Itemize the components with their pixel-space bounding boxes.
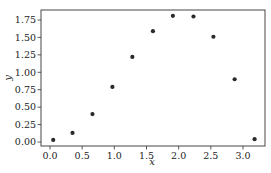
data-point xyxy=(130,55,134,59)
data-point xyxy=(211,35,215,39)
x-tick-label: 0.0 xyxy=(42,150,57,161)
data-point xyxy=(252,137,256,141)
x-tick-label: 2.0 xyxy=(171,150,186,161)
data-point xyxy=(51,138,55,142)
y-tick-label: 1.25 xyxy=(15,49,36,60)
data-point xyxy=(171,14,175,18)
y-tick-label: 1.75 xyxy=(15,14,36,25)
y-tick-label: 0.00 xyxy=(15,136,36,147)
y-tick-label: 0.75 xyxy=(15,84,36,95)
data-point xyxy=(90,112,94,116)
x-tick-label: 1.0 xyxy=(107,150,122,161)
data-points xyxy=(51,14,257,142)
data-point xyxy=(70,131,74,135)
y-tick-label: 0.50 xyxy=(15,101,36,112)
data-point xyxy=(110,85,114,89)
x-tick-label: 3.0 xyxy=(235,150,250,161)
y-tick-label: 0.25 xyxy=(15,119,36,130)
x-axis-label: x xyxy=(149,156,155,167)
y-tick-label: 1.50 xyxy=(15,32,36,43)
data-point xyxy=(233,77,237,81)
data-point xyxy=(151,29,155,33)
x-tick-label: 2.5 xyxy=(203,150,218,161)
data-point xyxy=(191,14,195,18)
y-axis-label: y xyxy=(2,75,13,82)
x-tick-label: 0.5 xyxy=(75,150,90,161)
y-tick-label: 1.00 xyxy=(15,67,36,78)
scatter-chart: 0.00.51.01.52.02.53.00.000.250.500.751.0… xyxy=(0,0,271,173)
